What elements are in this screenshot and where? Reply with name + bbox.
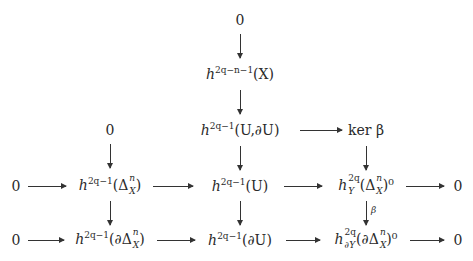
row3-zero-left: 0	[12, 179, 21, 193]
beta-label: β	[371, 205, 376, 215]
h-Delta-base: h	[79, 177, 88, 193]
ker-beta-text: ker β	[348, 122, 384, 138]
h-U-dU-sup: 2q−1	[210, 121, 235, 131]
arrow-zero-to-hX	[240, 34, 241, 58]
h-dDelta-base: h	[75, 231, 84, 247]
h-U-arg: (U)	[246, 178, 269, 194]
h-dU-base: h	[208, 232, 217, 248]
hdY-Delta-scripts: nX	[380, 231, 386, 249]
row4-zero-left-text: 0	[12, 232, 21, 248]
h-X-arg: (X)	[253, 66, 274, 82]
hY-n: n	[376, 174, 382, 183]
h-Delta-sup: 2q−1	[88, 176, 113, 186]
arrow-zero-to-hDelta-h	[28, 186, 66, 187]
hY-arg-pre: (Δ	[360, 177, 376, 193]
arrow-hdDelta-to-hdU	[157, 240, 195, 241]
row3-zero-left-text: 0	[12, 178, 21, 194]
top-zero-text: 0	[236, 12, 245, 28]
row3-zero-right-text: 0	[454, 178, 463, 194]
row4-zero-right: 0	[454, 233, 463, 247]
hdY-base: h	[335, 231, 344, 247]
hdY-scripts: 2q∂Y	[345, 231, 357, 249]
h-dDelta-arg-post: )	[139, 231, 144, 247]
node-hdY-dDelta0: h2q∂Y(∂ΔnX)⁰	[335, 231, 398, 249]
row4-zero-left: 0	[12, 233, 21, 247]
h-U-dU-base: h	[201, 122, 210, 138]
h-dU-sup: 2q−1	[217, 231, 242, 241]
arrow-hX-to-hUdU	[240, 90, 241, 114]
arrow-ker-to-hY	[366, 146, 367, 170]
arrow-zero-to-hdDelta	[28, 240, 64, 241]
h-dU-arg: (∂U)	[242, 232, 272, 248]
node-h-X: h2q−n−1(X)	[206, 67, 274, 81]
hY-scripts: 2qY	[348, 177, 360, 195]
hY-X: X	[376, 187, 382, 196]
arrow-hdU-to-hdY	[286, 240, 320, 241]
h-U-dU-arg: (U,∂U)	[234, 122, 279, 138]
top-zero: 0	[236, 13, 245, 27]
node-hY-Delta0: h2qY(ΔnX)⁰	[338, 177, 394, 195]
left-zero-r2: 0	[106, 123, 115, 137]
h-Delta-n: n	[129, 174, 135, 183]
hdY-sub: ∂Y	[345, 241, 357, 250]
hY-base: h	[338, 177, 347, 193]
h-Delta-scripts: nX	[129, 177, 135, 195]
arrow-hU-to-hdU	[240, 201, 241, 225]
node-h-U: h2q−1(U)	[212, 179, 269, 193]
arrow-beta	[366, 201, 367, 225]
h-dDelta-arg-pre: (∂Δ	[109, 231, 132, 247]
arrow-hUdU-to-hU	[240, 146, 241, 170]
left-zero-r2-text: 0	[106, 122, 115, 138]
arrow-hUdU-to-ker	[300, 130, 342, 131]
h-Delta-arg-pre: (Δ	[113, 177, 129, 193]
hY-Delta-scripts: nX	[376, 177, 382, 195]
arrow-hdY-to-zero	[410, 240, 444, 241]
h-U-base: h	[212, 178, 221, 194]
row4-zero-right-text: 0	[454, 232, 463, 248]
hdY-arg-post: )⁰	[386, 231, 397, 247]
h-X-sup: 2q−n−1	[215, 65, 253, 75]
arrow-zero-to-hDelta	[110, 144, 111, 168]
hY-sub: Y	[348, 187, 360, 196]
hdY-n: n	[380, 228, 386, 237]
h-Delta-arg-post: )	[136, 177, 141, 193]
hdY-X: X	[380, 241, 386, 250]
hY-sup: 2q	[348, 174, 360, 183]
h-dDelta-X: X	[133, 241, 139, 250]
hdY-arg-pre: (∂Δ	[356, 231, 379, 247]
h-dDelta-sup: 2q−1	[84, 230, 109, 240]
h-X-base: h	[206, 66, 215, 82]
arrow-hY-to-zero	[406, 186, 444, 187]
arrow-hDelta-to-hU	[153, 186, 193, 187]
arrow-hDelta-to-hdDelta	[110, 201, 111, 225]
h-U-sup: 2q−1	[221, 177, 246, 187]
node-h-Delta: h2q−1(ΔnX)	[79, 177, 141, 195]
h-dDelta-scripts: nX	[133, 231, 139, 249]
row3-zero-right: 0	[454, 179, 463, 193]
hdY-sup: 2q	[345, 228, 357, 237]
hY-arg-post: )⁰	[383, 177, 394, 193]
node-h-dU: h2q−1(∂U)	[208, 233, 272, 247]
node-h-U-dU: h2q−1(U,∂U)	[201, 123, 280, 137]
arrow-hU-to-hY	[284, 186, 322, 187]
node-h-dDelta: h2q−1(∂ΔnX)	[75, 231, 145, 249]
node-ker-beta: ker β	[348, 123, 384, 137]
h-dDelta-n: n	[133, 228, 139, 237]
h-Delta-X: X	[129, 187, 135, 196]
